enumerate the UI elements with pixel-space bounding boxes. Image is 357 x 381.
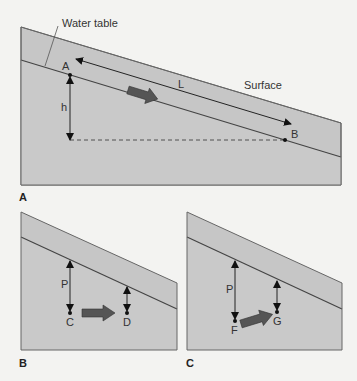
point-b-label: B (291, 128, 298, 140)
point-c-marker (68, 311, 72, 315)
point-c-label: C (66, 316, 74, 328)
point-f-marker (233, 319, 237, 323)
point-b-marker (283, 138, 287, 142)
point-g-label: G (273, 315, 282, 327)
panel-b-label: B (19, 357, 27, 369)
panel-a-label: A (19, 191, 27, 203)
point-g-marker (275, 310, 279, 314)
head-label: h (61, 101, 67, 113)
panel-c: P F G C (186, 212, 342, 369)
length-label: L (178, 78, 184, 90)
panel-b: P C D B (19, 212, 177, 369)
groundwater-flow-diagram: Water table Surface L A h B A P C (0, 0, 357, 381)
point-a-marker (68, 73, 72, 77)
panel-c-pressure-label: P (226, 283, 233, 295)
panel-b-pressure-label: P (61, 278, 68, 290)
point-d-marker (125, 311, 129, 315)
surface-label: Surface (244, 79, 282, 91)
panel-a: Water table Surface L A h B A (19, 17, 341, 203)
panel-c-label: C (186, 357, 194, 369)
water-table-label: Water table (62, 17, 118, 29)
point-a-label: A (62, 60, 70, 72)
point-d-label: D (123, 316, 131, 328)
point-f-label: F (231, 324, 238, 336)
